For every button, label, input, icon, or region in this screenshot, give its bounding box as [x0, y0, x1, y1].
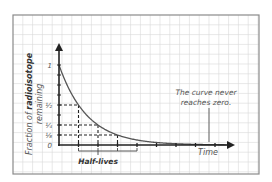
y-tick-label: ⅛ [45, 132, 52, 140]
y-label-prefix: Fraction of [25, 111, 34, 155]
annotation-line-1: The curve never [175, 88, 237, 97]
y-label-suffix: remaining [35, 84, 44, 125]
y-tick-label: ¼ [45, 122, 52, 130]
half-lives-bracket [79, 148, 138, 155]
y-label-bold: radioisotope [25, 52, 34, 109]
x-axis-label: Time [198, 148, 218, 157]
annotation-line-2: reaches zero. [181, 98, 232, 107]
half-life-guides [59, 105, 118, 145]
y-axis-label: Fraction of radioisotope remaining [25, 52, 44, 155]
svg-text:Fraction of radioisotope: Fraction of radioisotope [25, 52, 34, 155]
half-life-chart: 1½¼⅛0 Time Half-lives Fraction of radioi… [0, 0, 272, 182]
y-tick-label: ½ [45, 102, 52, 110]
y-tick-label: 1 [48, 62, 52, 70]
y-tick-labels: 1½¼⅛0 [45, 62, 52, 150]
y-tick-label: 0 [48, 142, 53, 150]
half-lives-label: Half-lives [78, 157, 118, 166]
